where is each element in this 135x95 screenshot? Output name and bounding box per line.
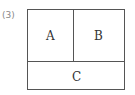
region-diagram: A B C — [27, 9, 125, 90]
figure-number-label: (3) — [2, 11, 15, 20]
region-c-label: C — [72, 71, 81, 83]
region-b-label: B — [94, 30, 103, 42]
vertical-divider — [73, 10, 74, 61]
horizontal-divider — [28, 61, 124, 62]
region-a-label: A — [46, 30, 55, 42]
